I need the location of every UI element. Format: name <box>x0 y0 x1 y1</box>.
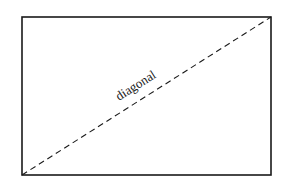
diagram-canvas: diagonal <box>0 0 284 187</box>
diagonal-label: diagonal <box>113 67 159 104</box>
diagonal-line <box>22 17 271 175</box>
